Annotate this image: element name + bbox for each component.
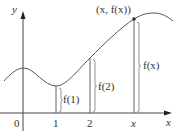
height-label-f2: f(2) — [98, 81, 115, 92]
function-curve — [4, 13, 173, 86]
brace-fx — [137, 22, 141, 112]
curve-point — [132, 17, 136, 21]
height-label-f1: f(1) — [63, 94, 80, 105]
tick-label-x: x — [131, 118, 136, 129]
tick-label-2: 2 — [87, 118, 93, 129]
brace-f2 — [93, 60, 97, 112]
x-axis-label: x — [166, 117, 171, 128]
height-label-fx: f(x) — [143, 60, 160, 71]
y-axis-arrow-icon — [21, 11, 26, 19]
point-label: (x, f(x)) — [96, 4, 131, 15]
tick-label-1: 1 — [53, 118, 59, 129]
brace-f1 — [59, 88, 63, 112]
x-axis-arrow-icon — [164, 111, 172, 116]
origin-label: 0 — [14, 118, 20, 129]
y-axis-label: y — [12, 4, 17, 15]
